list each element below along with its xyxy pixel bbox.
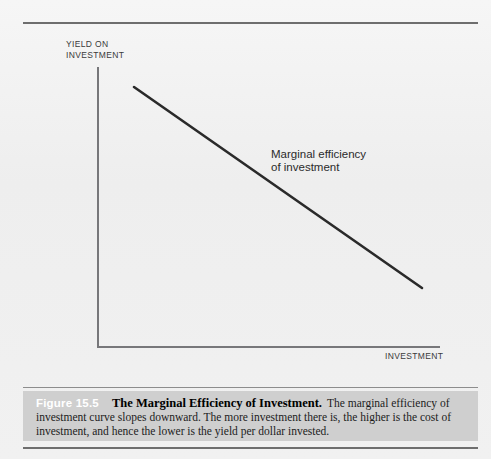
figure-caption-text: Figure 15.5The Marginal Efficiency of In… (36, 396, 466, 439)
curve-annotation-label: Marginal efficiency of investment (271, 148, 366, 174)
figure-title: The Marginal Efficiency of Investment. (112, 396, 322, 410)
mei-curve-svg (0, 0, 491, 385)
figure-page: YIELD ON INVESTMENT INVESTMENT Marginal … (0, 0, 491, 459)
caption-divider-rule (23, 387, 478, 388)
marginal-efficiency-curve (134, 87, 422, 288)
figure-caption-band: Figure 15.5The Marginal Efficiency of In… (23, 391, 478, 441)
bottom-divider-rule (23, 447, 478, 449)
chart-area: YIELD ON INVESTMENT INVESTMENT Marginal … (0, 0, 491, 385)
figure-number-label: Figure 15.5 (36, 397, 99, 409)
